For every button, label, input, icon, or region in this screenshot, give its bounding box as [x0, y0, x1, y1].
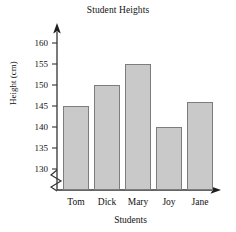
y-tick-label-155: 155	[22, 60, 48, 69]
x-tick-label-tom: Tom	[60, 197, 92, 207]
bar-tom	[63, 106, 89, 190]
x-tick-label-joy: Joy	[153, 197, 185, 207]
bar-dick	[94, 85, 120, 190]
x-tick-label-jane: Jane	[184, 197, 216, 207]
x-tick-label-dick: Dick	[91, 197, 123, 207]
x-axis-label: Students	[48, 215, 213, 225]
bar-jane	[187, 102, 213, 190]
y-tick-label-140: 140	[22, 123, 48, 132]
y-tick-label-160: 160	[22, 39, 48, 48]
y-tick-label-145: 145	[22, 102, 48, 111]
bar-chart: Student Heights Height (cm) 160 155 150 …	[0, 0, 236, 232]
y-tick-label-135: 135	[22, 144, 48, 153]
x-tick-label-mary: Mary	[122, 197, 154, 207]
y-tick-label-150: 150	[22, 81, 48, 90]
y-tick-label-130: 130	[22, 165, 48, 174]
y-axis-break-zigzag-icon	[51, 170, 61, 191]
bar-joy	[156, 127, 182, 190]
bar-mary	[125, 64, 151, 190]
y-axis-arrow-icon	[53, 23, 61, 34]
